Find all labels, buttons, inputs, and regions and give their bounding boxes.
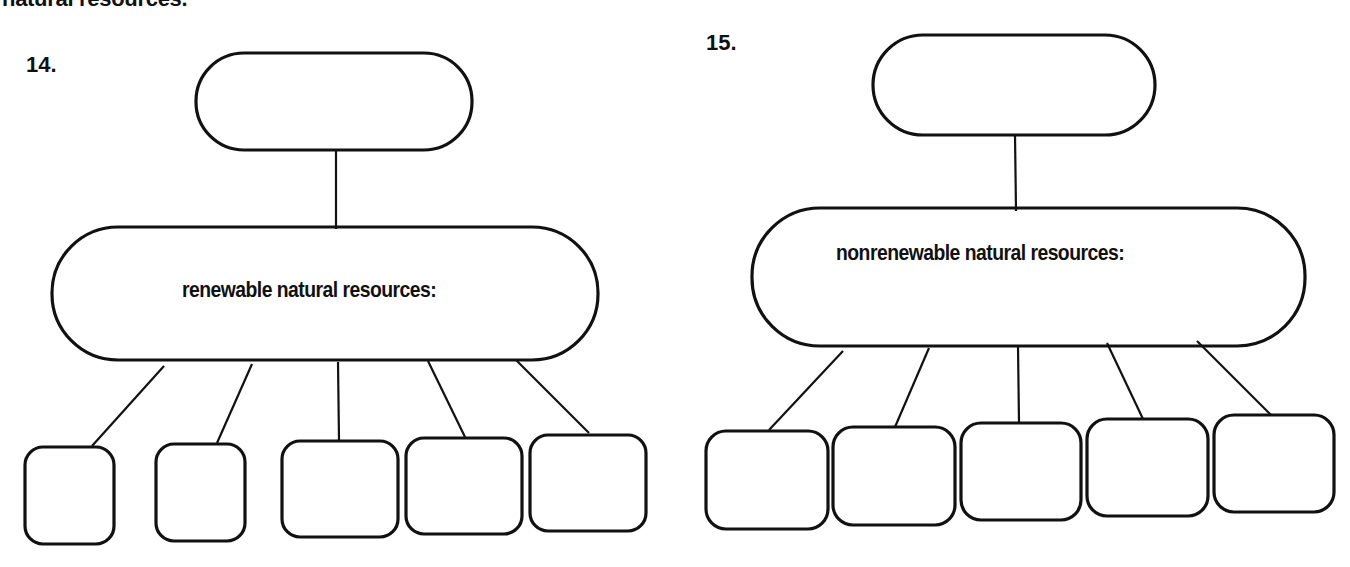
child-answer-box-14-4[interactable]	[406, 438, 522, 534]
connector-child-14-1	[92, 366, 164, 446]
connector-child-14-5	[516, 360, 589, 433]
connector-child-14-3	[338, 362, 339, 440]
connector-top-15	[1015, 134, 1016, 211]
connector-child-14-2	[217, 364, 252, 443]
child-answer-box-15-2[interactable]	[833, 427, 955, 525]
main-box-nonrenewable[interactable]	[752, 208, 1305, 346]
connector-child-14-4	[428, 361, 465, 437]
child-answer-box-15-4[interactable]	[1087, 419, 1208, 516]
child-answer-box-14-3[interactable]	[282, 441, 398, 537]
connector-child-15-5	[1197, 341, 1271, 415]
child-answer-box-14-1[interactable]	[25, 447, 114, 544]
connector-child-15-2	[895, 348, 929, 427]
connector-child-15-3	[1018, 346, 1019, 423]
top-answer-box-14[interactable]	[196, 53, 472, 150]
diagram-15	[706, 35, 1334, 529]
main-box-renewable-label: renewable natural resources:	[182, 277, 436, 303]
connector-child-15-4	[1107, 343, 1143, 419]
child-answer-box-15-5[interactable]	[1214, 415, 1334, 512]
child-answer-box-14-2[interactable]	[156, 444, 245, 541]
child-answer-box-15-3[interactable]	[961, 423, 1081, 520]
main-box-nonrenewable-label: nonrenewable natural resources:	[836, 240, 1124, 266]
top-answer-box-15[interactable]	[873, 35, 1155, 135]
child-answer-box-15-1[interactable]	[706, 431, 828, 529]
child-answer-box-14-5[interactable]	[530, 435, 646, 531]
connector-child-15-1	[769, 351, 843, 430]
